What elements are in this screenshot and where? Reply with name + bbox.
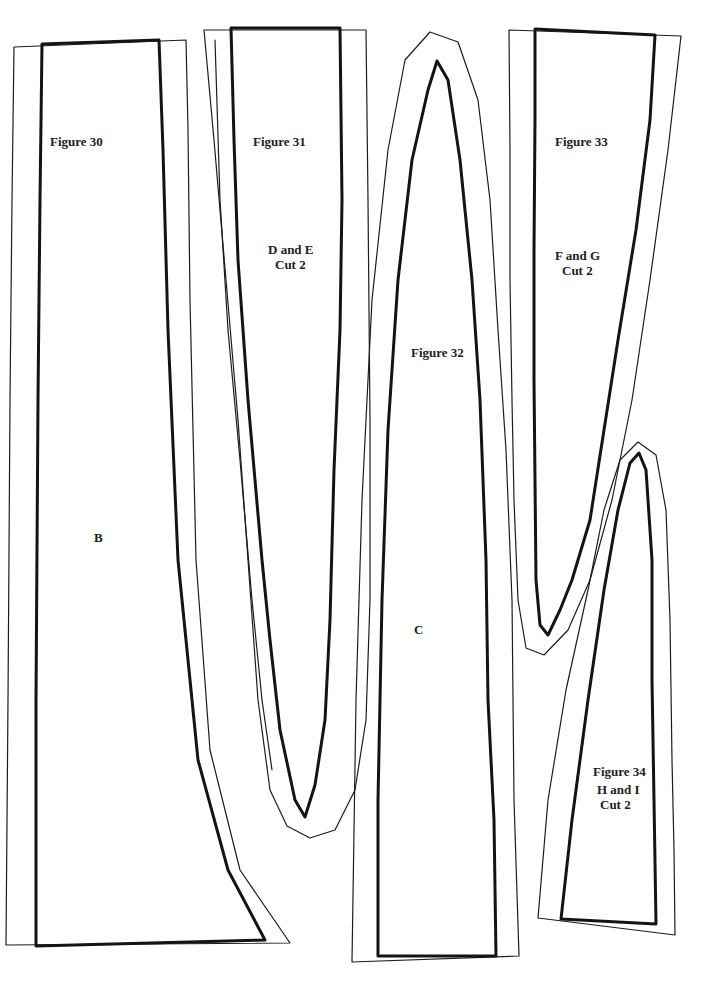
piece-f-g-name: F and G [555,248,600,264]
figure-30-label: Figure 30 [50,134,103,150]
piece-d-e-cut: Cut 2 [275,257,306,273]
figure-34-label: Figure 34 [593,764,646,780]
pattern-piece-f-g [509,29,681,655]
stitching-line [534,29,655,635]
piece-h-i-cut: Cut 2 [600,797,631,813]
pattern-piece-c [352,32,519,962]
piece-c-letter: C [414,622,423,638]
piece-h-i-name: H and I [597,782,640,798]
cutting-line [6,40,290,945]
stitching-line [561,453,656,924]
pattern-piece-b [6,40,290,946]
piece-f-g-cut: Cut 2 [562,263,593,279]
figure-33-label: Figure 33 [555,134,608,150]
figure-32-label: Figure 32 [411,345,464,361]
cutting-line [204,30,370,838]
stitching-line [36,40,265,946]
figure-31-label: Figure 31 [253,134,306,150]
piece-d-e-name: D and E [268,242,314,258]
piece-b-letter: B [94,530,103,546]
pattern-piece-h-i [538,442,675,935]
stitching-line [378,61,496,956]
